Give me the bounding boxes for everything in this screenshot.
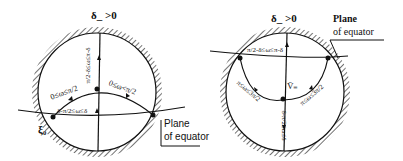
right-sphere <box>210 30 384 154</box>
xi-label: ξ₀ <box>38 124 46 135</box>
left-vertical-label: π/2-δ≤ω≤π-δ <box>85 47 92 83</box>
right-top-arc-label: π/2-δ≤ω≤π-δ <box>247 47 283 54</box>
right-bottom-label: δ-π/2≤ω≤δ <box>280 110 287 140</box>
right-plane-label-1: Plane <box>333 14 357 24</box>
left-bottom-label: δ-π/2≤ω≤δ <box>57 108 87 115</box>
right-plane-label-2: of equator <box>333 27 374 37</box>
left-plane-label-1: Plane <box>164 119 190 129</box>
left-top-label: δ_ >0 <box>91 10 117 21</box>
left-plane-label-2: of equator <box>164 132 209 142</box>
right-center-label: V̄₌ <box>287 82 299 91</box>
right-top-label: δ_ >0 <box>271 13 297 24</box>
